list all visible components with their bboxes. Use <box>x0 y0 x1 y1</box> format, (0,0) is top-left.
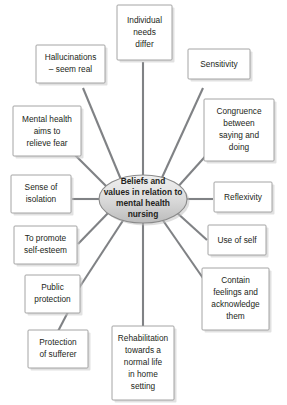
node-label-line: them <box>226 311 245 321</box>
node-label-line: differ <box>135 39 154 49</box>
hub-label-line: values in relation to <box>104 187 183 197</box>
node-sensitivity[interactable]: Sensitivity <box>188 49 253 82</box>
spoke-mental-health-aims-to-relieve-fear <box>75 155 110 190</box>
node-label-line: protection <box>34 294 71 304</box>
node-public-protection[interactable]: Public protection <box>25 275 83 316</box>
spoke-sensitivity <box>160 88 203 182</box>
hub-label-line: nursing <box>128 209 159 219</box>
hub-label-line: Beliefs and <box>121 176 166 186</box>
spoke-contain-feelings-and-acknowledge-them <box>162 219 205 281</box>
node-label-line: Individual <box>127 15 162 25</box>
node-label-line: isolation <box>26 194 57 204</box>
node-protection-of-sufferer[interactable]: Protection of sufferer <box>28 330 91 371</box>
node-label-line: acknowledge <box>211 299 260 309</box>
node-label-line: Mental health <box>22 114 72 124</box>
spoke-public-protection <box>79 219 124 288</box>
node-hallucinations-seem-real[interactable]: Hallucinations – seem real <box>36 45 108 86</box>
node-label-line: Reflexivity <box>224 192 263 202</box>
node-label-line: Hallucinations <box>45 52 97 62</box>
node-individual-needs-differ[interactable]: Individual needs differ <box>117 5 175 63</box>
mind-map-diagram: Individual needs differ Hallucinations –… <box>0 0 287 405</box>
spoke-to-promote-self-esteem <box>78 211 110 244</box>
node-to-promote-self-esteem[interactable]: To promote self-esteem <box>14 226 80 267</box>
node-label-line: Public <box>41 282 64 292</box>
node-label-line: Sensitivity <box>200 59 238 69</box>
node-label-line: feelings and <box>213 287 258 297</box>
node-label-line: doing <box>229 142 250 152</box>
node-rehabilitation-towards-a-normal-life-in-home-setting[interactable]: Rehabilitation towards a normal life in … <box>112 326 177 403</box>
node-use-of-self[interactable]: Use of self <box>208 225 269 258</box>
node-label-line: towards a <box>125 345 161 355</box>
node-label-line: between <box>223 118 255 128</box>
node-label-line: Protection <box>39 337 77 347</box>
hub-label-line: mental health <box>116 198 170 208</box>
node-label-line: Congruence <box>216 106 262 116</box>
node-mental-health-aims-to-relieve-fear[interactable]: Mental health aims to relieve fear <box>13 106 84 159</box>
node-label-line: To promote <box>25 233 67 243</box>
node-label-line: Use of self <box>217 235 257 245</box>
node-label-line: self-esteem <box>24 245 67 255</box>
node-label-line: Sense of <box>25 182 58 192</box>
node-label-line: saying and <box>219 130 260 140</box>
node-contain-feelings-and-acknowledge-them[interactable]: Contain feelings and acknowledge them <box>202 268 272 333</box>
node-reflexivity[interactable]: Reflexivity <box>214 182 275 215</box>
node-congruence-between-saying-and-doing[interactable]: Congruence between saying and doing <box>204 99 277 164</box>
node-label-line: setting <box>131 381 156 391</box>
node-label-line: normal life <box>124 357 163 367</box>
node-sense-of-isolation[interactable]: Sense of isolation <box>11 175 74 216</box>
node-label-line: – seem real <box>49 64 93 74</box>
node-label-line: Contain <box>221 275 250 285</box>
node-label-line: relieve fear <box>26 138 67 148</box>
central-hub[interactable]: Beliefs and values in relation to mental… <box>99 175 190 226</box>
node-label-line: aims to <box>34 126 61 136</box>
node-label-line: needs <box>133 27 156 37</box>
node-label-line: of sufferer <box>39 349 76 359</box>
node-label-line: in home <box>128 369 158 379</box>
node-label-line: Rehabilitation <box>118 333 169 343</box>
